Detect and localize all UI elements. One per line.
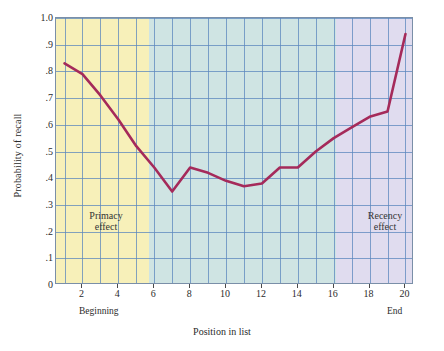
y-axis-tick-label: .1 <box>13 252 53 263</box>
primacy-effect-line2: effect <box>95 221 118 232</box>
y-axis-tick-label: 1.0 <box>13 12 53 23</box>
x-axis-tick-label: 4 <box>97 288 137 299</box>
y-axis-tick-label: 0 <box>13 279 53 290</box>
recency-effect-annotation: Recency effect <box>345 210 425 232</box>
x-axis-tick-mark <box>225 284 226 288</box>
y-axis-tick-label: .3 <box>13 198 53 209</box>
primacy-effect-line1: Primacy <box>89 210 122 221</box>
x-axis-start-label: Beginning <box>79 306 119 316</box>
x-axis-tick-mark <box>297 284 298 288</box>
x-axis-tick-mark <box>261 284 262 288</box>
recency-effect-line1: Recency <box>368 210 402 221</box>
x-axis-tick-label: 10 <box>205 288 245 299</box>
y-axis-tick-label: .4 <box>13 172 53 183</box>
plot-area <box>55 17 413 284</box>
y-axis-tick-label: .9 <box>13 38 53 49</box>
x-axis-tick-mark <box>404 284 405 288</box>
x-axis-title: Position in list <box>0 326 444 337</box>
x-axis-tick-label: 20 <box>384 288 424 299</box>
x-axis-tick-label: 18 <box>349 288 389 299</box>
x-axis-tick-label: 16 <box>313 288 353 299</box>
x-axis-end-label: End <box>387 306 402 316</box>
recall-curve-line <box>65 34 406 192</box>
x-axis-tick-mark <box>333 284 334 288</box>
serial-position-chart: Probability of recall 1.0.9.8.7.6.5.4.3.… <box>0 0 444 351</box>
recall-curve <box>56 18 413 284</box>
y-axis-tick-label: .6 <box>13 118 53 129</box>
x-axis-tick-label: 14 <box>277 288 317 299</box>
y-axis-tick-label: .7 <box>13 92 53 103</box>
x-axis-tick-mark <box>81 284 82 288</box>
primacy-effect-annotation: Primacy effect <box>66 210 146 232</box>
x-axis-tick-label: 12 <box>241 288 281 299</box>
x-axis-tick-label: 8 <box>169 288 209 299</box>
x-axis-tick-mark <box>369 284 370 288</box>
y-axis-tick-label: .2 <box>13 225 53 236</box>
y-axis-tick-label: .5 <box>13 145 53 156</box>
x-axis-tick-mark <box>189 284 190 288</box>
y-axis-tick-label: .8 <box>13 65 53 76</box>
x-axis-tick-mark <box>117 284 118 288</box>
x-axis-tick-label: 2 <box>61 288 101 299</box>
recency-effect-line2: effect <box>374 221 397 232</box>
x-axis-tick-mark <box>153 284 154 288</box>
x-axis-tick-label: 6 <box>133 288 173 299</box>
